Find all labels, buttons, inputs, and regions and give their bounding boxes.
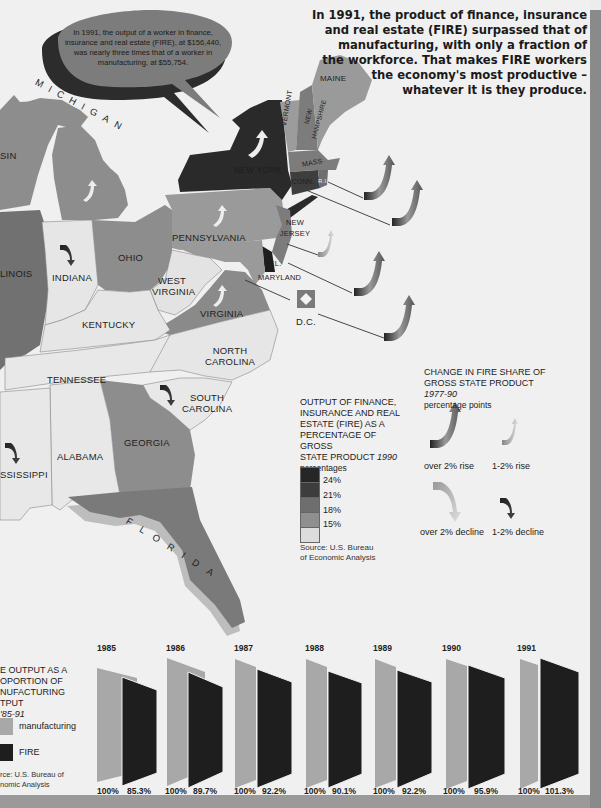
bar-year-1987: 1987 xyxy=(234,643,253,653)
threshold-21: 21% xyxy=(323,490,341,500)
legend-1-2-rise-icon xyxy=(502,418,518,445)
swatch-18-21 xyxy=(300,498,320,513)
rise-arrow-icon-dc xyxy=(384,295,415,341)
headline-line: and real estate (FIRE) surpassed that of xyxy=(297,23,587,38)
share-legend-title: OUTPUT OF FINANCE, INSURANCE AND REAL ES… xyxy=(300,397,410,474)
source-line: Source: U.S. Bureau xyxy=(300,543,376,553)
swatch-21-24 xyxy=(300,483,320,498)
bar-pair-1987 xyxy=(235,659,292,788)
change-legend-title: CHANGE IN FIRE SHARE OF GROSS STATE PROD… xyxy=(424,367,584,411)
bubble-line: In 1991, the output of a worker in finan… xyxy=(58,28,228,38)
share-legend-line: ESTATE (FIRE) AS A xyxy=(300,419,410,430)
bar-pct-manufacturing-1985: 100% xyxy=(97,786,119,796)
label-mississippi: SSISSIPPI xyxy=(0,469,48,480)
bar-legend-fire-swatch xyxy=(0,744,13,761)
label-dc: D.C. xyxy=(296,316,316,327)
bar-pct-manufacturing-1986: 100% xyxy=(165,786,187,796)
bar-pct-manufacturing-1990: 100% xyxy=(443,786,465,796)
source-line: rce: U.S. Bureau of xyxy=(0,770,64,780)
label-south-carolina: SOUTH CAROLINA xyxy=(182,392,232,414)
bar-pair-1986 xyxy=(167,658,223,788)
label-west-virginia: WEST VIRGINIA xyxy=(152,275,192,297)
bar-legend-line: E OUTPUT AS A xyxy=(0,665,100,676)
bar-legend-fire-label: FIRE xyxy=(19,747,40,757)
change-legend-line: GROSS STATE PRODUCT xyxy=(424,378,584,389)
state-michigan xyxy=(52,125,128,220)
share-legend-source: Source: U.S. Bureau of Economic Analysis xyxy=(300,543,376,563)
change-legend-years: 1977-90 xyxy=(424,389,457,399)
share-legend-line: INSURANCE AND REAL xyxy=(300,408,410,419)
bar-pct-manufacturing-1991: 100% xyxy=(518,786,540,796)
label-virginia: VIRGINIA xyxy=(200,308,243,319)
headline-line: whatever it is they produce. xyxy=(297,83,587,98)
label-maryland: MARYLAND xyxy=(258,272,301,283)
headline: In 1991, the product of finance, insuran… xyxy=(297,8,587,98)
threshold-24: 24% xyxy=(323,475,341,485)
bar-pair-1988 xyxy=(306,659,362,788)
label-conn: CONN. xyxy=(292,176,314,187)
swatch-over-24 xyxy=(300,467,320,483)
bar-pct-fire-1986: 89.7% xyxy=(193,786,217,796)
legend-over-2-decline-label: over 2% decline xyxy=(420,527,484,537)
change-legend-unit: percentage points xyxy=(424,400,584,411)
bubble-line: manufacturing, at $55,754. xyxy=(58,58,228,68)
label-tennessee: TENNESSEE xyxy=(47,374,106,385)
label-ohio: OHIO xyxy=(118,252,143,263)
label-north-carolina: NORTH CAROLINA xyxy=(200,345,260,367)
bar-legend-title: E OUTPUT AS A OPORTION OF NUFACTURING TP… xyxy=(0,665,100,720)
threshold-15: 15% xyxy=(323,519,341,529)
bar-pair-1991 xyxy=(520,658,579,789)
bar-pct-manufacturing-1989: 100% xyxy=(373,786,395,796)
share-legend-year: 1990 xyxy=(377,452,397,462)
share-legend-line: PERCENTAGE OF GROSS xyxy=(300,430,410,452)
bar-legend-source: rce: U.S. Bureau of nomic Analysis xyxy=(0,770,64,789)
state-mississippi xyxy=(0,388,52,520)
label-illinois: LINOIS xyxy=(0,268,32,279)
bar-legend-manufacturing-swatch xyxy=(0,718,13,735)
legend-1-2-decline-label: 1-2% decline xyxy=(492,527,544,537)
label-maine: MAINE xyxy=(320,73,346,84)
legend-1-2-rise-label: 1-2% rise xyxy=(492,461,530,471)
bar-year-1988: 1988 xyxy=(305,643,324,653)
bar-year-1991: 1991 xyxy=(517,643,536,653)
headline-line: manufacturing, with only a fraction of xyxy=(297,38,587,53)
bar-year-1990: 1990 xyxy=(442,643,461,653)
label-ri: R.I. xyxy=(318,176,328,187)
legend-over-2-decline-icon xyxy=(433,482,461,522)
bar-legend-line: TPUT xyxy=(0,698,100,709)
bar-year-1985: 1985 xyxy=(97,643,116,653)
label-indiana: INDIANA xyxy=(52,272,92,283)
swatch-under-15 xyxy=(300,528,320,543)
rise-arrow-icon-conn xyxy=(392,180,423,226)
state-new-york xyxy=(178,100,292,200)
label-kentucky: KENTUCKY xyxy=(82,319,135,330)
speech-bubble-text: In 1991, the output of a worker in finan… xyxy=(58,28,228,68)
bar-legend-manufacturing-label: manufacturing xyxy=(19,721,76,731)
bar-legend-years: '85-91 xyxy=(0,709,25,719)
bar-pct-fire-1989: 92.2% xyxy=(402,786,426,796)
label-delaware: DEL. xyxy=(264,258,281,269)
bar-pct-manufacturing-1987: 100% xyxy=(234,786,256,796)
change-legend-line: CHANGE IN FIRE SHARE OF xyxy=(424,367,584,378)
bar-year-1989: 1989 xyxy=(373,643,392,653)
source-line: nomic Analysis xyxy=(0,780,64,790)
source-line: of Economic Analysis xyxy=(300,553,376,563)
label-georgia: GEORGIA xyxy=(124,437,170,448)
rise-arrow-icon-ri xyxy=(364,155,395,200)
bar-pct-fire-1990: 95.9% xyxy=(474,786,498,796)
bar-pct-fire-1991: 101.3% xyxy=(545,786,574,796)
bar-pct-manufacturing-1988: 100% xyxy=(304,786,326,796)
bar-year-1986: 1986 xyxy=(166,643,185,653)
share-legend-line: OUTPUT OF FINANCE, xyxy=(300,397,410,408)
headline-line: the workforce. That makes FIRE workers xyxy=(297,53,587,68)
bar-pct-fire-1985: 85.3% xyxy=(127,786,151,796)
rise-arrow-icon-del xyxy=(354,251,385,296)
label-alabama: ALABAMA xyxy=(57,451,103,462)
headline-line: In 1991, the product of finance, insuran… xyxy=(297,8,587,23)
share-legend-swatches xyxy=(300,467,318,543)
light-rise-arrow-icon-nj xyxy=(318,230,334,257)
label-pennsylvania: PENNSYLVANIA xyxy=(172,232,246,243)
label-new-jersey: NEW JERSEY xyxy=(277,217,313,239)
bar-pair-1990 xyxy=(446,659,505,789)
bar-pct-fire-1988: 90.1% xyxy=(332,786,356,796)
